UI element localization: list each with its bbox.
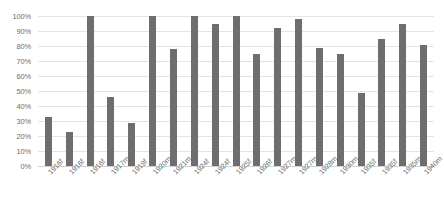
bars-series: [38, 16, 434, 166]
x-axis-slot: 1924f: [205, 168, 226, 212]
bar: [233, 16, 240, 166]
bar: [295, 19, 302, 166]
y-axis-tick-label: 60%: [17, 72, 32, 81]
bar: [378, 39, 385, 167]
bar-slot: [184, 16, 205, 166]
bar-slot: [80, 16, 101, 166]
bar: [337, 54, 344, 167]
bar: [66, 132, 73, 167]
bar: [399, 24, 406, 167]
bar-slot: [246, 16, 267, 166]
x-axis-slot: 1916f: [59, 168, 80, 212]
bar: [149, 16, 156, 166]
bar: [191, 16, 198, 166]
x-axis-slot: 1921m: [163, 168, 184, 212]
y-axis-tick-label: 30%: [17, 117, 32, 126]
bar: [316, 48, 323, 167]
bar: [170, 49, 177, 166]
bar: [358, 93, 365, 167]
bar-slot: [330, 16, 351, 166]
y-axis-tick-label: 0%: [21, 162, 31, 171]
x-axis-slot: 1925f: [226, 168, 247, 212]
bar-slot: [101, 16, 122, 166]
bar: [420, 45, 427, 167]
x-axis-slot: 1928m: [309, 168, 330, 212]
y-axis-tick-label: 20%: [17, 132, 32, 141]
bar-slot: [392, 16, 413, 166]
bar: [274, 28, 281, 166]
y-axis-tick-label: 90%: [17, 27, 32, 36]
bar-slot: [38, 16, 59, 166]
bar-slot: [226, 16, 247, 166]
y-axis-tick-label: 10%: [17, 147, 32, 156]
x-axis-slot: 1935f: [372, 168, 393, 212]
x-axis-slot: 1917m: [101, 168, 122, 212]
x-axis-slot: 1920m: [142, 168, 163, 212]
y-axis-tick-label: 50%: [17, 87, 32, 96]
y-axis-tick-label: 70%: [17, 57, 32, 66]
bar-slot: [142, 16, 163, 166]
y-axis-tick-label: 80%: [17, 42, 32, 51]
x-axis-slot: 1927m: [267, 168, 288, 212]
y-axis-tick-label: 100%: [12, 12, 31, 21]
bar: [107, 97, 114, 166]
bar: [87, 16, 94, 166]
x-axis-slot: 1916f: [80, 168, 101, 212]
x-axis-slot: 1916f: [38, 168, 59, 212]
x-axis-slot: 1930m: [330, 168, 351, 212]
bar-slot: [163, 16, 184, 166]
x-axis-slot: 1935f: [351, 168, 372, 212]
x-axis-slot: 1924f: [184, 168, 205, 212]
y-axis-tick-label: 40%: [17, 102, 32, 111]
bar-slot: [288, 16, 309, 166]
y-axis: 0%10%20%30%40%50%60%70%80%90%100%: [0, 16, 34, 166]
x-axis-slot: 1935m: [392, 168, 413, 212]
bar-slot: [205, 16, 226, 166]
x-axis-slot: 1926f: [246, 168, 267, 212]
bar: [253, 54, 260, 167]
bar-slot: [59, 16, 80, 166]
x-axis: 1916f1916f1916f1917m1919f1920m1921m1924f…: [38, 168, 434, 212]
x-axis-slot: 1919f: [121, 168, 142, 212]
bar: [45, 117, 52, 167]
plot-area: [38, 16, 434, 166]
bar-slot: [267, 16, 288, 166]
bar-slot: [309, 16, 330, 166]
bar-slot: [413, 16, 434, 166]
bar-slot: [351, 16, 372, 166]
x-axis-slot: 1927m: [288, 168, 309, 212]
x-axis-slot: 1940m: [413, 168, 434, 212]
bar-slot: [372, 16, 393, 166]
bar-slot: [121, 16, 142, 166]
bar: [212, 24, 219, 167]
